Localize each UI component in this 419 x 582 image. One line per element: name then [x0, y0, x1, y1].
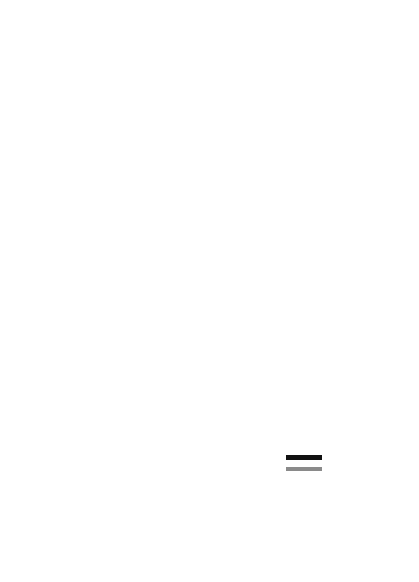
legend-item-controls	[286, 455, 331, 460]
chart-percent-symptoms	[0, 390, 419, 582]
legend	[286, 455, 331, 478]
legend-swatch-controls	[286, 455, 322, 460]
legend-swatch-cases	[286, 467, 322, 472]
chart-baby-three	[0, 0, 419, 200]
chart-baby-one	[0, 200, 419, 390]
figure-root	[0, 0, 419, 582]
legend-item-cases	[286, 467, 331, 472]
